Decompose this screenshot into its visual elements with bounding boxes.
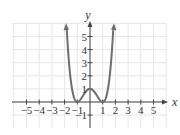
x-tick-label: −4 — [33, 104, 45, 116]
function-graph: −5−4−3−2−112345−112345xy — [0, 0, 180, 135]
x-axis-arrow-icon — [162, 100, 168, 105]
y-tick-label: 4 — [82, 44, 88, 56]
x-tick-label: 3 — [125, 104, 131, 116]
x-tick-label: −3 — [46, 104, 58, 116]
tick-labels: −5−4−3−2−112345−112345xy — [21, 8, 178, 121]
x-tick-label: −5 — [21, 104, 33, 116]
y-tick-label: 1 — [82, 83, 88, 95]
y-axis-label: y — [84, 8, 91, 22]
x-tick-label: −2 — [59, 104, 71, 116]
y-tick-label: −1 — [75, 109, 87, 121]
x-tick-label: 1 — [100, 104, 106, 116]
x-axis-label: x — [171, 95, 178, 109]
x-tick-label: 2 — [113, 104, 119, 116]
y-tick-label: 2 — [82, 70, 88, 82]
y-tick-label: 5 — [82, 31, 88, 43]
y-tick-label: 3 — [82, 57, 88, 69]
x-tick-label: 4 — [138, 104, 144, 116]
x-tick-label: 5 — [151, 104, 157, 116]
